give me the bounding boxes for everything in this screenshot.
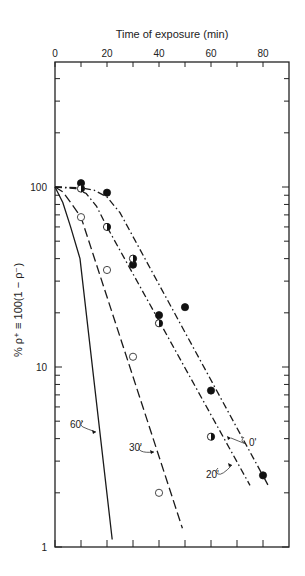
- x-tick-label: 20: [101, 48, 113, 59]
- curve-label: 0': [249, 437, 257, 448]
- arrow-head: [227, 436, 231, 440]
- filled-point: [103, 189, 110, 196]
- plot: 020406080110100 0'20'30'60': [0, 0, 305, 576]
- x-tick-label: 60: [205, 48, 217, 59]
- curves: [55, 187, 268, 540]
- squiggle-leader: [81, 421, 96, 432]
- y-tick-label: 10: [36, 362, 48, 373]
- x-tick-label: 40: [153, 48, 165, 59]
- curve-label: 20': [206, 469, 219, 480]
- curve-20min: [55, 187, 250, 485]
- y-tick-label: 1: [41, 542, 47, 553]
- arrow-head: [150, 450, 154, 454]
- axes: 020406080110100: [30, 48, 289, 553]
- y-tick-label: 100: [30, 182, 47, 193]
- curve-label: 30': [129, 442, 142, 453]
- open-point: [155, 489, 162, 496]
- open-point: [103, 266, 110, 273]
- filled-point: [259, 472, 266, 479]
- open-point: [77, 214, 84, 221]
- arrow-head: [92, 430, 96, 434]
- curve-60min: [55, 187, 112, 540]
- filled-point: [207, 387, 214, 394]
- curve-0min: [55, 187, 268, 485]
- squiggle-leader: [231, 437, 245, 443]
- open-point: [129, 353, 136, 360]
- plot-frame: [55, 62, 289, 547]
- x-tick-label: 0: [52, 48, 58, 59]
- data-points: [77, 180, 266, 497]
- x-tick-label: 80: [257, 48, 269, 59]
- arrow-head: [228, 463, 232, 467]
- filled-point: [155, 312, 162, 319]
- filled-point: [181, 304, 188, 311]
